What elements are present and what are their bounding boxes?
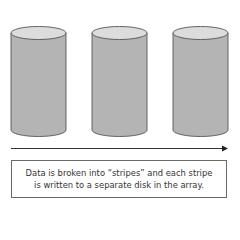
- direction-arrow-head: [222, 146, 228, 152]
- disk-cylinder: [173, 27, 228, 137]
- disk-top: [173, 27, 228, 40]
- disk-top: [92, 27, 147, 40]
- disk-body: [173, 33, 228, 137]
- disk-body: [11, 33, 66, 136]
- disk-cylinder: [92, 27, 147, 137]
- caption-line-1: Data is broken into “stripes” and each s…: [26, 167, 213, 179]
- caption-line-2: is written to a separate disk in the arr…: [26, 179, 213, 191]
- disk-cylinder: [11, 27, 66, 137]
- disk-body: [92, 33, 147, 136]
- caption-box: Data is broken into “stripes” and each s…: [11, 160, 227, 198]
- disk-top: [11, 27, 66, 40]
